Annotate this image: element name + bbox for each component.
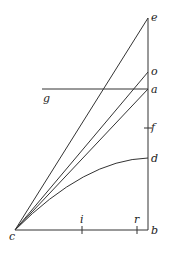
label-i: i	[80, 213, 84, 226]
label-g: g	[43, 92, 50, 105]
label-r: r	[134, 213, 140, 226]
label-b: b	[151, 224, 158, 237]
geometric-diagram: e o a f d b c g i r	[0, 0, 170, 253]
label-c: c	[9, 230, 15, 243]
line-ca	[15, 89, 148, 230]
label-o: o	[151, 65, 158, 78]
label-a: a	[151, 83, 158, 96]
line-ce	[15, 18, 148, 230]
label-d: d	[151, 152, 158, 165]
label-f: f	[150, 121, 157, 134]
label-e: e	[151, 11, 158, 24]
line-co	[15, 72, 148, 230]
